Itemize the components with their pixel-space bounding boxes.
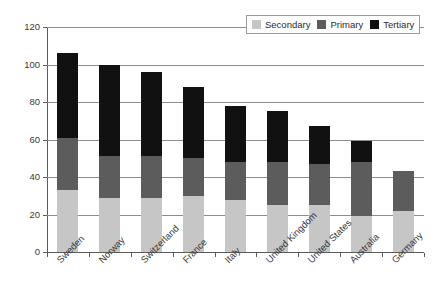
bar-segment-tertiary[interactable] (351, 141, 372, 162)
bar-switzerland[interactable] (141, 27, 162, 252)
bar-segment-secondary[interactable] (225, 200, 246, 253)
y-tick-label: 20 (29, 210, 40, 220)
bar-united-kingdom[interactable] (267, 27, 288, 252)
legend-label: Tertiary (383, 20, 414, 30)
bar-segment-primary[interactable] (141, 156, 162, 197)
bar-norway[interactable] (99, 27, 120, 252)
x-tick-mark (131, 253, 132, 257)
stacked-bar-chart: 020406080100120 SwedenNorwaySwitzerlandF… (0, 0, 432, 306)
y-tick-label-wrap: 20 (0, 210, 40, 220)
bar-segment-tertiary[interactable] (267, 111, 288, 162)
bar-segment-primary[interactable] (57, 138, 78, 191)
bar-segment-primary[interactable] (99, 156, 120, 197)
bar-segment-tertiary[interactable] (309, 126, 330, 164)
bar-australia[interactable] (351, 27, 372, 252)
legend-label: Secondary (265, 20, 310, 30)
x-tick-mark (215, 253, 216, 257)
y-tick-label-wrap: 120 (0, 22, 40, 32)
y-tick-label-wrap: 100 (0, 60, 40, 70)
bar-segment-tertiary[interactable] (183, 87, 204, 158)
x-tick-mark (382, 253, 383, 257)
bar-segment-tertiary[interactable] (141, 72, 162, 156)
x-tick-mark (256, 253, 257, 257)
bar-segment-primary[interactable] (393, 171, 414, 210)
legend-swatch-primary-icon (317, 20, 326, 29)
bar-segment-tertiary[interactable] (57, 53, 78, 137)
bar-segment-tertiary[interactable] (99, 65, 120, 157)
bar-segment-primary[interactable] (309, 164, 330, 205)
legend-label: Primary (330, 20, 363, 30)
y-tick-label: 120 (24, 22, 40, 32)
y-tick-label: 0 (35, 247, 40, 257)
legend-swatch-secondary-icon (252, 20, 261, 29)
plot-area (47, 27, 424, 252)
x-tick-mark (47, 253, 48, 257)
legend-item-tertiary[interactable]: Tertiary (370, 20, 414, 30)
bar-segment-primary[interactable] (351, 162, 372, 216)
bar-italy[interactable] (225, 27, 246, 252)
y-tick-label: 100 (24, 60, 40, 70)
bar-france[interactable] (183, 27, 204, 252)
bar-sweden[interactable] (57, 27, 78, 252)
x-tick-mark (340, 253, 341, 257)
x-tick-mark (89, 253, 90, 257)
bar-segment-primary[interactable] (267, 162, 288, 205)
legend-item-primary[interactable]: Primary (317, 20, 363, 30)
bar-segment-primary[interactable] (183, 158, 204, 196)
bar-segment-primary[interactable] (225, 162, 246, 200)
x-tick-mark (173, 253, 174, 257)
legend-item-secondary[interactable]: Secondary (252, 20, 310, 30)
y-tick-label-wrap: 0 (0, 247, 40, 257)
bar-germany[interactable] (393, 27, 414, 252)
y-tick-label: 60 (29, 135, 40, 145)
x-tick-mark (298, 253, 299, 257)
legend-swatch-tertiary-icon (370, 20, 379, 29)
x-tick-mark (424, 253, 425, 257)
chart-legend: SecondaryPrimaryTertiary (246, 15, 420, 34)
y-tick-label-wrap: 60 (0, 135, 40, 145)
y-tick-label: 80 (29, 97, 40, 107)
y-tick-label: 40 (29, 172, 40, 182)
y-tick-label-wrap: 80 (0, 97, 40, 107)
y-tick-label-wrap: 40 (0, 172, 40, 182)
bar-segment-tertiary[interactable] (225, 106, 246, 162)
